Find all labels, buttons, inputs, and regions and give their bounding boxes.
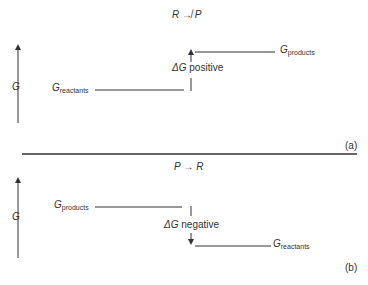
products-label-b: Gproducts <box>54 199 89 210</box>
g-axis-label-b: G <box>12 211 20 222</box>
panel-label-b: (b) <box>345 262 357 273</box>
subscript: products <box>62 204 89 211</box>
g-symbol: G <box>54 199 62 210</box>
delta-label-a: ΔG positive <box>172 62 223 73</box>
delta-g-symbol: ΔG <box>164 219 179 230</box>
delta-label-b: ΔG negative <box>164 219 219 230</box>
reaction-arrow-icon: → <box>183 161 193 172</box>
reactants-label-b: Greactants <box>273 238 310 249</box>
products-label-a: Gproducts <box>280 44 315 55</box>
diagram-lines <box>0 0 368 285</box>
reaction-label-b: P → R <box>174 161 203 172</box>
reaction-right: P <box>195 9 202 20</box>
g-symbol: G <box>280 44 288 55</box>
delta-sign-text: positive <box>189 62 223 73</box>
reaction-right: R <box>196 161 203 172</box>
delta-sign-text: negative <box>181 219 219 230</box>
no-reaction-arrow-icon: ↛ <box>182 9 192 20</box>
reaction-label-a: R ↛ P <box>172 9 201 20</box>
reactants-label-a: Greactants <box>52 82 89 93</box>
g-symbol: G <box>273 238 281 249</box>
subscript: products <box>288 49 315 56</box>
g-symbol: G <box>52 82 60 93</box>
subscript: reactants <box>60 87 89 94</box>
reaction-left: R <box>172 9 179 20</box>
subscript: reactants <box>281 243 310 250</box>
g-axis-label-a: G <box>12 81 20 92</box>
reaction-left: P <box>174 161 181 172</box>
panel-label-a: (a) <box>345 140 357 151</box>
delta-g-symbol: ΔG <box>172 62 187 73</box>
